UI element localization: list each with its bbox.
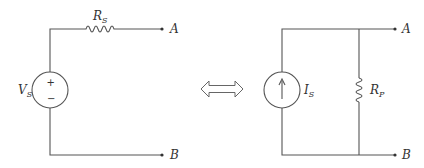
left-circuit: A + − VS RS B: [18, 9, 179, 162]
terminal-a-label: A: [169, 22, 179, 36]
wire-right-top: [282, 29, 394, 72]
is-label: IS: [303, 83, 315, 99]
terminal-a-dot: [393, 27, 396, 30]
terminal-a-label: A: [401, 22, 411, 36]
right-circuit: A IS RP B: [264, 22, 411, 162]
resistor-rs-icon: [82, 26, 117, 32]
wire-left-top: [50, 29, 82, 72]
rp-label: RP: [369, 83, 385, 99]
plus-sign: +: [47, 77, 55, 88]
resistor-rp-icon: [356, 78, 362, 102]
wire-left-bottom: [50, 108, 161, 155]
terminal-a-dot: [160, 27, 163, 30]
wire-right-bottom: [282, 108, 394, 155]
terminal-b-dot: [160, 153, 163, 156]
terminal-b-label: B: [401, 148, 411, 162]
terminal-b-label: B: [169, 148, 179, 162]
rs-label: RS: [92, 9, 108, 25]
vs-label: VS: [18, 83, 33, 99]
circuit-diagram: A + − VS RS B A IS RP B: [0, 0, 424, 168]
double-arrow-icon: [201, 81, 243, 97]
terminal-b-dot: [393, 153, 396, 156]
minus-sign: −: [47, 93, 55, 104]
